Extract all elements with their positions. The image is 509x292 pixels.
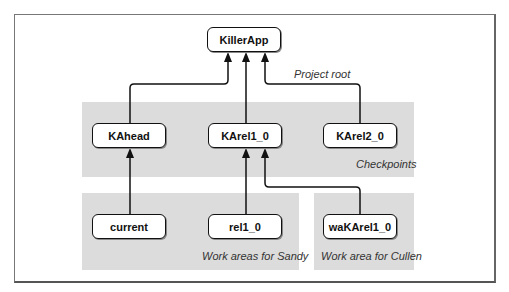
node-karel2-0: KArel2_0 xyxy=(323,123,397,148)
node-kahead: KAhead xyxy=(92,123,166,148)
node-killerapp: KillerApp xyxy=(207,27,281,52)
cullen-work-label: Work area for Cullen xyxy=(321,250,422,262)
node-rel1-0: rel1_0 xyxy=(208,214,282,239)
sandy-work-label: Work areas for Sandy xyxy=(202,250,308,262)
node-current: current xyxy=(92,214,166,239)
project-root-note: Project root xyxy=(294,68,350,80)
node-wakarel1-0: waKArel1_0 xyxy=(323,214,397,239)
checkpoints-label: Checkpoints xyxy=(356,158,417,170)
node-karel1-0: KArel1_0 xyxy=(208,123,282,148)
